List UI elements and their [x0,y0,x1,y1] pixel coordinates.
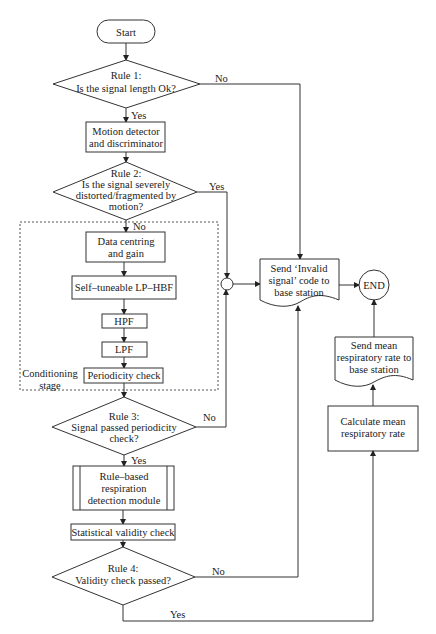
rule3-yes-label: Yes [131,455,146,466]
svg-text:Rule 1:: Rule 1: [111,70,142,81]
conditioning-label-line2: stage [39,380,61,391]
rule4-no-label: No [212,566,225,577]
respiration-detection-module: Rule–based respiration detection module [73,466,174,510]
svg-text:Is the signal length Ok?: Is the signal length Ok? [76,83,176,94]
svg-text:Rule 3:: Rule 3: [109,411,140,422]
svg-text:Motion detector: Motion detector [92,126,160,137]
rule1-decision: Rule 1: Is the signal length Ok? [53,60,200,108]
svg-text:Self–tuneable LP–HBF: Self–tuneable LP–HBF [75,282,173,293]
svg-text:Is the signal severely: Is the signal severely [82,179,171,190]
start-terminal: Start [97,20,155,43]
svg-text:respiratory rate: respiratory rate [341,428,405,439]
statistical-validity-check-process: Statistical validity check [71,524,175,540]
flowchart-canvas: Conditioning stage Start Rule 1: Is the … [0,0,436,634]
svg-text:detection module: detection module [88,495,161,506]
lpf-process: LPF [102,342,147,357]
svg-text:Data centring: Data centring [98,236,156,247]
svg-text:base station: base station [349,364,399,375]
svg-text:respiration: respiration [102,483,148,494]
svg-text:base station: base station [274,287,324,298]
svg-text:respiratory rate to: respiratory rate to [337,352,412,363]
svg-text:Calculate mean: Calculate mean [340,416,406,427]
svg-text:Send mean: Send mean [351,340,398,351]
rule2-yes-label: Yes [209,181,224,192]
svg-text:LPF: LPF [115,344,133,355]
send-invalid-signal-document: Send ‘Invalid signal’ code to base stati… [260,259,339,306]
svg-text:Rule–based: Rule–based [100,471,150,482]
send-mean-rate-document: Send mean respiratory rate to base stati… [335,337,413,386]
svg-text:Send ‘Invalid: Send ‘Invalid [271,263,329,274]
svg-text:Periodicity check: Periodicity check [87,370,161,381]
svg-text:signal’ code to: signal’ code to [268,275,329,286]
motion-detector-process: Motion detector and discriminator [86,122,165,152]
conditioning-label-line1: Conditioning [22,368,78,379]
svg-text:END: END [363,280,385,291]
hpf-process: HPF [102,314,147,328]
svg-text:Signal passed periodicity: Signal passed periodicity [71,422,177,433]
rule3-no-label: No [203,412,216,423]
svg-text:and discriminator: and discriminator [89,138,163,149]
calculate-mean-process: Calculate mean respiratory rate [328,406,418,451]
rule1-no-label: No [215,73,228,84]
svg-text:Statistical validity check: Statistical validity check [71,527,175,538]
svg-text:distorted/fragmented by: distorted/fragmented by [76,190,177,201]
svg-text:motion?: motion? [109,201,144,212]
periodicity-check-process: Periodicity check [84,368,163,383]
svg-text:Rule 2:: Rule 2: [111,168,142,179]
svg-text:check?: check? [109,433,138,444]
rule4-decision: Rule 4: Validity check passed? [52,547,195,605]
rule1-yes-label: Yes [131,110,146,121]
end-terminal: END [359,270,389,300]
svg-text:Rule 4:: Rule 4: [108,563,139,574]
svg-text:and gain: and gain [108,248,145,259]
svg-text:HPF: HPF [114,316,133,327]
rule2-no-label: No [133,221,146,232]
lphbf-process: Self–tuneable LP–HBF [72,276,176,299]
data-centring-process: Data centring and gain [86,232,165,262]
svg-text:Validity check passed?: Validity check passed? [75,575,171,586]
svg-text:Start: Start [116,27,136,38]
rule2-decision: Rule 2: Is the signal severely distorted… [53,162,197,220]
rule3-decision: Rule 3: Signal passed periodicity check? [52,397,196,455]
junction-connector [221,278,233,290]
rule4-yes-label: Yes [170,609,185,620]
